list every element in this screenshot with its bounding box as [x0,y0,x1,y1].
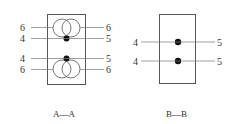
label-5: 5 [106,33,111,44]
label-5: 5 [217,37,222,48]
label-4: 4 [133,56,138,67]
section-b-b: 4 5 4 5 B—B [133,15,222,120]
label-5: 5 [106,53,111,64]
caption-a-a: A—A [53,109,75,119]
label-6: 6 [106,22,111,33]
caption-b-b: B—B [166,109,187,119]
label-6: 6 [106,64,111,75]
section-b-frame [160,15,196,84]
section-a-a: 6 6 4 5 4 5 6 6 A—A [20,15,111,120]
label-5: 5 [217,56,222,67]
label-6: 6 [20,22,25,33]
label-4: 4 [20,53,25,64]
section-diagram: 6 6 4 5 4 5 6 6 A—A 4 5 4 5 B—B [0,0,233,124]
label-6: 6 [20,64,25,75]
label-4: 4 [133,37,138,48]
label-4: 4 [20,33,25,44]
